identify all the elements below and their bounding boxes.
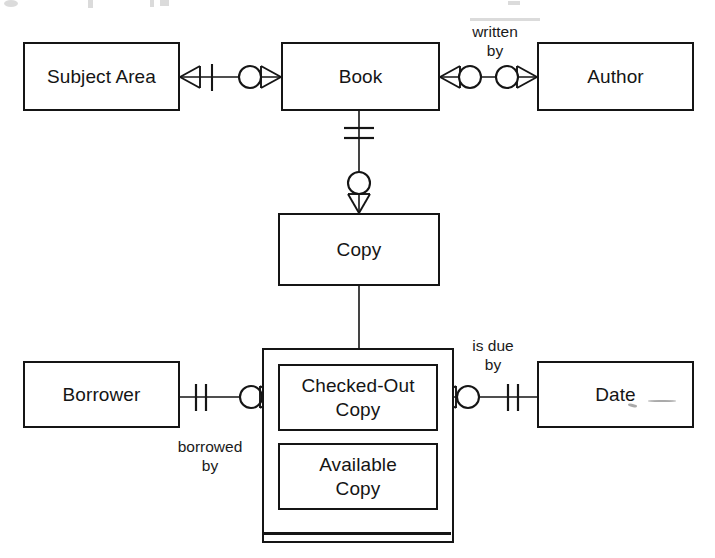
entity-author[interactable]: Author — [537, 42, 694, 111]
entity-checked-out-copy[interactable]: Checked-Out Copy — [278, 364, 438, 431]
entity-borrower[interactable]: Borrower — [23, 361, 180, 428]
relationship-label-written-by: written by — [450, 22, 540, 61]
entity-book[interactable]: Book — [281, 42, 440, 111]
relationship-label-borrowed-by: borrowed by — [155, 437, 265, 476]
supertype-bottom-rule — [264, 532, 451, 535]
entity-subject-area[interactable]: Subject Area — [23, 42, 180, 111]
entity-label: Copy — [331, 238, 388, 261]
entity-label: Book — [333, 65, 389, 88]
entity-label: Available Copy — [313, 453, 403, 499]
entity-label: Subject Area — [41, 65, 162, 88]
scan-artifact — [648, 400, 676, 402]
entity-label: Borrower — [57, 383, 147, 406]
relationship-label-is-due-by: is due by — [448, 336, 538, 375]
entity-available-copy[interactable]: Available Copy — [278, 443, 438, 510]
entity-copy[interactable]: Copy — [278, 213, 440, 286]
entity-label: Checked-Out Copy — [295, 374, 420, 420]
entity-label: Author — [581, 65, 650, 88]
entity-label: Date — [589, 383, 642, 406]
entity-date[interactable]: Date — [537, 361, 694, 428]
